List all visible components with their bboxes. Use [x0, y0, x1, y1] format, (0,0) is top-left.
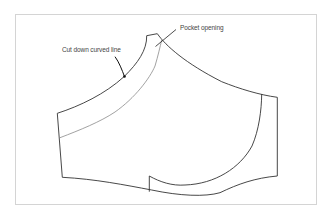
label-cut-down-curved-line: Cut down curved line — [62, 47, 121, 54]
pocket-curve — [149, 94, 261, 192]
label-pocket-opening: Pocket opening — [180, 25, 223, 32]
cut-down-pointer-line — [115, 57, 125, 77]
cut-down-guide-curve — [60, 40, 162, 138]
pattern-outline — [57, 34, 277, 196]
pattern-diagram — [0, 0, 329, 217]
cut-down-pointer-dot — [123, 75, 126, 78]
